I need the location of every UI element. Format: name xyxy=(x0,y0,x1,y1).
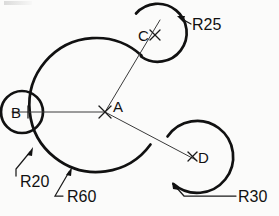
leader-r20 xyxy=(16,147,33,176)
point-label-b: B xyxy=(11,104,21,121)
centerline-a-to-d xyxy=(105,112,196,160)
scan-artifact xyxy=(4,1,32,5)
point-label-d: D xyxy=(198,149,209,166)
leader-arrow-r20 xyxy=(27,147,33,156)
engineering-drawing: A B C D R20 R25 R30 R60 xyxy=(0,0,279,216)
point-label-c: C xyxy=(138,27,149,44)
leader-arrow-r60 xyxy=(66,167,72,176)
cad-canvas: A B C D R20 R25 R30 R60 xyxy=(0,0,279,216)
dimension-label-r25: R25 xyxy=(192,16,221,33)
circle-a-outline xyxy=(29,38,150,172)
dimension-label-r60: R60 xyxy=(67,188,96,205)
point-label-a: A xyxy=(113,98,123,115)
dimension-label-r30: R30 xyxy=(238,188,267,205)
dimension-label-r20: R20 xyxy=(20,173,49,190)
